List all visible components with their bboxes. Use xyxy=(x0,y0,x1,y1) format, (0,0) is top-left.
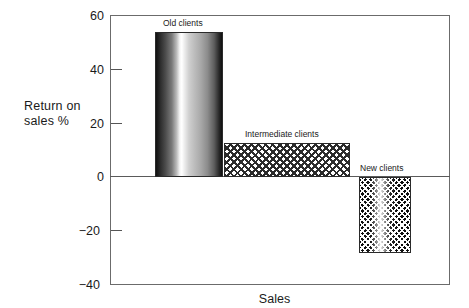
y-tick-label-0: 0 xyxy=(70,171,104,183)
y-tick-label-20: 20 xyxy=(70,118,104,130)
x-axis-title-text: Sales xyxy=(259,292,290,306)
y-axis-title-line2: sales % xyxy=(24,114,69,128)
y-axis-title-line1: Return on xyxy=(24,99,81,113)
y-tick-label-neg40: −40 xyxy=(66,279,100,291)
y-tick-mark-40 xyxy=(111,69,122,70)
bar-intermediate-clients[interactable] xyxy=(224,143,350,177)
y-tick-label-neg20: −20 xyxy=(66,225,100,237)
bar-label-old-clients: Old clients xyxy=(163,18,203,28)
bar-old-clients[interactable] xyxy=(155,32,223,177)
bar-label-new-clients: New clients xyxy=(360,163,403,173)
y-tick-label-60: 60 xyxy=(70,10,104,22)
bar-chart: Return onsales % 60 40 20 0 −20 −40 Old … xyxy=(0,0,469,308)
y-tick-mark-20 xyxy=(111,123,122,124)
y-tick-label-40: 40 xyxy=(70,64,104,76)
bar-label-intermediate-clients: Intermediate clients xyxy=(245,129,319,139)
bar-new-clients[interactable] xyxy=(359,177,411,253)
x-axis-title: Sales xyxy=(0,292,469,306)
y-tick-mark-neg20 xyxy=(111,230,122,231)
